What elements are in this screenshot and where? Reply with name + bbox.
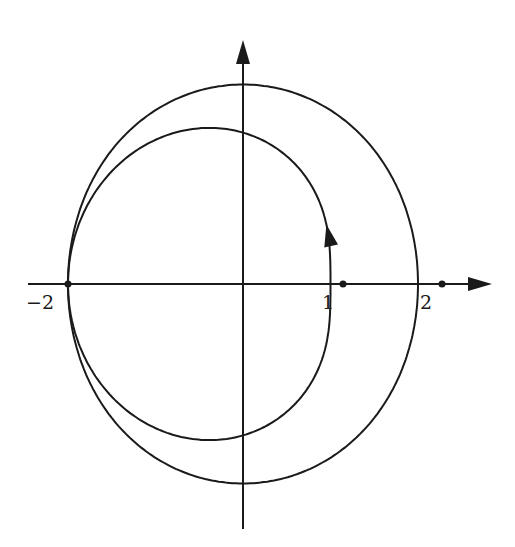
point-2 bbox=[439, 281, 446, 288]
tick-label-neg2: −2 bbox=[26, 293, 54, 312]
x-axis-arrow-icon bbox=[468, 277, 492, 291]
point-1 bbox=[340, 281, 347, 288]
x-axis bbox=[28, 277, 492, 291]
tick-label-2: 2 bbox=[420, 293, 432, 312]
tick-label-1: 1 bbox=[322, 293, 334, 312]
polar-diagram bbox=[0, 0, 515, 547]
direction-arrow-icon bbox=[324, 225, 338, 248]
y-axis-arrow-icon bbox=[236, 40, 250, 64]
point-neg2 bbox=[65, 281, 72, 288]
